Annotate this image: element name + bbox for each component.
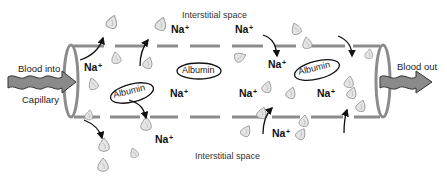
interstitial-space-bottom-label: Interstitial space (195, 152, 260, 161)
blood-into-label: Blood into (18, 64, 60, 74)
movement-arrows (80, 35, 352, 138)
blood-out-arrow-icon (380, 71, 432, 93)
blood-in-arrow-icon (8, 71, 76, 93)
capillary-label: Capillary (22, 95, 59, 105)
sodium-ion-label: Na+ (84, 62, 102, 73)
sodium-ion-label: Na+ (235, 24, 253, 35)
sodium-ion-label: Na+ (272, 128, 290, 139)
sodium-ion-label: Na+ (317, 88, 335, 99)
sodium-ion-label: Na+ (171, 24, 189, 35)
sodium-ion-label: Na+ (170, 88, 188, 99)
albumin-center-label: Albumin (182, 66, 215, 75)
blood-out-label: Blood out (397, 62, 437, 72)
capillary-diagram: Interstitial space Interstitial space Bl… (0, 0, 447, 180)
interstitial-space-top-label: Interstitial space (182, 11, 247, 20)
sodium-ion-label: Na+ (239, 88, 257, 99)
sodium-ion-label: Na+ (155, 134, 173, 145)
sodium-ion-label: Na+ (268, 59, 286, 70)
